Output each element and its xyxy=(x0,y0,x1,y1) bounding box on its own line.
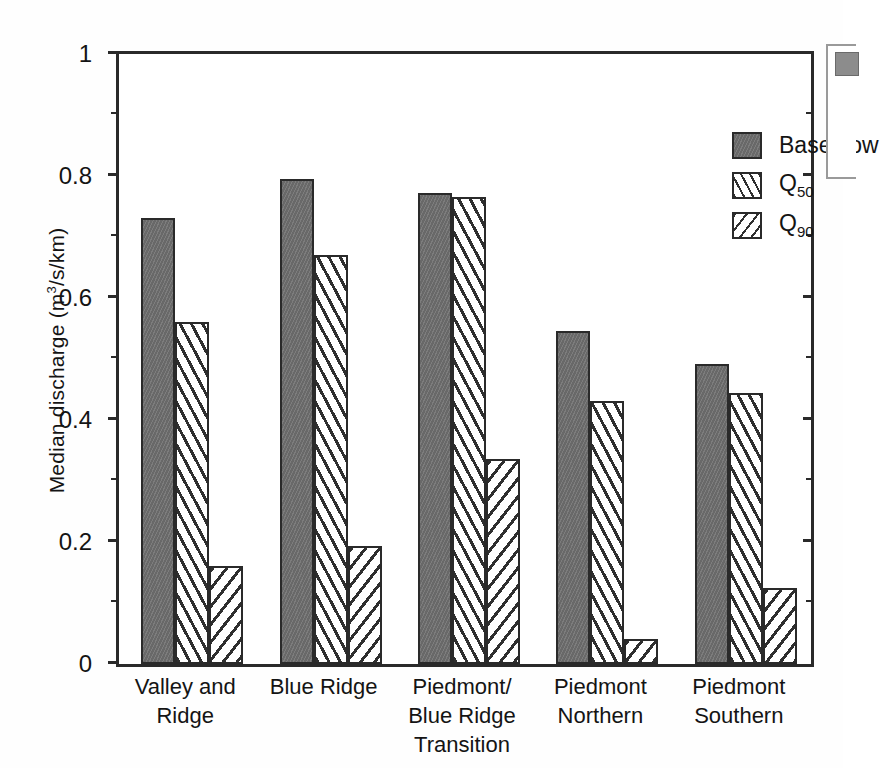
y-tick-minor-0.1 xyxy=(111,600,119,602)
y-axis-title-main: Median discharge (m xyxy=(45,293,68,493)
x-axis-label: Valley andRidge xyxy=(116,672,254,730)
legend-swatch-q50 xyxy=(732,172,762,199)
bar-q50[interactable] xyxy=(729,393,763,664)
x-axis-label-line: Ridge xyxy=(116,701,254,730)
y-tick-label-0.2: 0.2 xyxy=(59,528,92,556)
x-axis-label: Blue Ridge xyxy=(254,672,392,701)
x-axis-labels: Valley andRidgeBlue RidgePiedmont/Blue R… xyxy=(116,672,811,768)
x-axis-label-line: Piedmont xyxy=(670,672,808,701)
bar-base[interactable] xyxy=(418,193,452,664)
bar-q90[interactable] xyxy=(624,639,658,664)
y-tick-minor-0.7 xyxy=(111,234,119,236)
x-axis-label-line: Blue Ridge xyxy=(254,672,392,701)
bar-q90[interactable] xyxy=(486,459,520,664)
y-axis-title-superscript: 3 xyxy=(44,286,59,293)
y-tick-major-0: 0 xyxy=(108,661,119,664)
plot-area: 0 0.2 0.4 0.6 0.8 1 Base flowQ50Q90 xyxy=(116,51,814,667)
y-axis-title-tail: /s/km) xyxy=(45,228,68,286)
bar-q90[interactable] xyxy=(348,546,382,664)
chart-legend: Base flowQ50Q90 xyxy=(732,128,884,248)
bar-group xyxy=(418,54,520,664)
bar-groups xyxy=(119,54,811,664)
bar-q50[interactable] xyxy=(590,401,624,664)
bar-base[interactable] xyxy=(695,364,729,664)
legend-item[interactable]: Q50 xyxy=(732,168,884,202)
bar-group xyxy=(280,54,382,664)
x-axis-label-line: Piedmont/ xyxy=(393,672,531,701)
y-tick-minor-0.9 xyxy=(111,112,119,114)
adjacent-figure-swatch xyxy=(835,52,859,76)
y-tick-label-0.4: 0.4 xyxy=(59,406,92,434)
legend-label: Q50 xyxy=(779,170,814,200)
x-axis-label-line: Transition xyxy=(393,730,531,759)
bar-q90[interactable] xyxy=(209,566,243,664)
x-axis-label: PiedmontNorthern xyxy=(531,672,669,730)
bar-q50[interactable] xyxy=(452,197,486,664)
legend-item[interactable]: Base flow xyxy=(732,128,884,162)
x-axis-label-line: Piedmont xyxy=(531,672,669,701)
x-axis-label-line: Northern xyxy=(531,701,669,730)
legend-swatch-q90 xyxy=(732,212,762,239)
bar-base[interactable] xyxy=(141,218,175,664)
legend-item[interactable]: Q90 xyxy=(732,208,884,242)
legend-label-subscript: 90 xyxy=(797,223,814,240)
adjacent-figure-edge-artifact xyxy=(826,44,856,179)
y-axis-title: Median discharge (m3/s/km) xyxy=(44,61,69,661)
x-axis-label: Piedmont/Blue RidgeTransition xyxy=(393,672,531,759)
y-tick-label-0: 0 xyxy=(79,650,92,678)
bar-q50[interactable] xyxy=(314,255,348,664)
bar-base[interactable] xyxy=(280,179,314,664)
x-axis-label-line: Valley and xyxy=(116,672,254,701)
legend-swatch-base xyxy=(732,132,762,159)
legend-label-subscript: 50 xyxy=(797,183,814,200)
bar-q90[interactable] xyxy=(763,588,797,664)
y-tick-major-1: 1 xyxy=(108,51,119,54)
y-tick-label-0.8: 0.8 xyxy=(59,162,92,190)
legend-label: Q90 xyxy=(779,210,814,240)
y-tick-major-0.6: 0.6 xyxy=(108,295,119,298)
x-axis-label-line: Blue Ridge xyxy=(393,701,531,730)
x-axis-label-line: Southern xyxy=(670,701,808,730)
bar-group xyxy=(141,54,243,664)
y-tick-major-0.4: 0.4 xyxy=(108,417,119,420)
y-tick-minor-0.3 xyxy=(111,478,119,480)
y-tick-major-0.2: 0.2 xyxy=(108,539,119,542)
x-axis-label: PiedmontSouthern xyxy=(670,672,808,730)
y-tick-label-1: 1 xyxy=(79,40,92,68)
bar-group xyxy=(556,54,658,664)
bar-base[interactable] xyxy=(556,331,590,664)
bar-q50[interactable] xyxy=(175,322,209,664)
y-tick-label-0.6: 0.6 xyxy=(59,284,92,312)
y-tick-major-0.8: 0.8 xyxy=(108,173,119,176)
y-tick-minor-0.5 xyxy=(111,356,119,358)
